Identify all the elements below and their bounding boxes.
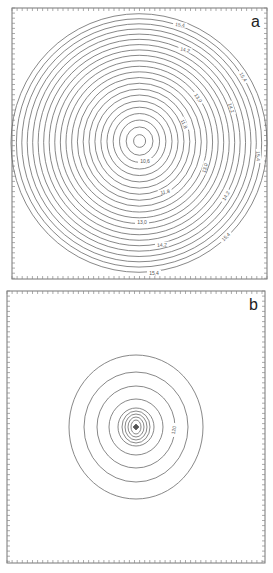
contour-label: 15,4 (255, 151, 261, 161)
contour-panel-b: 120b (0, 286, 273, 573)
contour-label: 13,0 (137, 219, 147, 225)
plot-frame (12, 8, 267, 279)
contour-plot-a: 15,414,215,413,014,211,815,410,613,011,8… (0, 0, 273, 286)
contour-label: 11,8 (160, 188, 170, 196)
panel-label: a (251, 13, 260, 30)
contour-label: 13,0 (200, 162, 208, 173)
contour-label: 15,4 (175, 21, 186, 28)
contour-label: 15,4 (149, 270, 159, 276)
contour-panel-a: 15,414,215,413,014,211,815,410,613,011,8… (0, 0, 273, 286)
contour-label: 14,2 (227, 102, 236, 113)
contour-label: 14,2 (157, 241, 167, 248)
contour-label: 120 (170, 425, 177, 434)
contour-label: 10,6 (140, 158, 150, 164)
contour-label: 14,2 (180, 46, 191, 54)
panel-label: b (249, 296, 258, 313)
contour-plot-b: 120b (0, 286, 273, 573)
contour-lines (69, 355, 203, 499)
